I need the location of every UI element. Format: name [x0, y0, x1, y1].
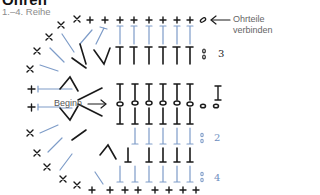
row-4-bottom-light	[95, 166, 193, 184]
turning-chains-2	[201, 133, 203, 143]
join-arrow	[211, 16, 230, 24]
row-2-top-light	[80, 26, 193, 44]
row-2-bottom-light	[132, 128, 193, 144]
turning-chains-3	[203, 49, 206, 59]
row-3-bottom-dark	[100, 145, 193, 162]
join-marker	[200, 17, 207, 23]
row-1-chains	[117, 101, 219, 108]
row-label-4: 4	[214, 172, 220, 183]
row-1-lower-dark	[117, 108, 193, 124]
row-4-bottom-sc	[89, 187, 199, 193]
join-label: Ohrteile verbinden	[233, 14, 273, 36]
row-1-upper-dark	[117, 84, 193, 100]
row-3-top-dark	[80, 44, 193, 64]
row-label-3: 3	[218, 48, 224, 59]
join-label-line1: Ohrteile	[233, 14, 273, 25]
start-arrow	[88, 100, 106, 108]
row-label-2: 2	[214, 132, 220, 143]
turning-ch-1	[215, 86, 221, 100]
join-label-line2: verbinden	[233, 25, 273, 36]
turning-chains-4	[201, 172, 203, 182]
start-label: Beginn	[54, 98, 82, 109]
row-4-top-sc	[87, 17, 193, 23]
